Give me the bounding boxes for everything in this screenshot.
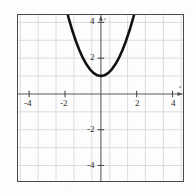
y-tick-label-4: 4: [90, 17, 95, 26]
x-tick-label--2: -2: [60, 99, 68, 108]
y-tick-label--2: -2: [87, 125, 95, 134]
scan-speck: [187, 8, 188, 9]
x-tick-label-4: 4: [171, 99, 176, 108]
plot-area: [17, 14, 184, 182]
graph-screenshot: -4 -2 2 4 4 2 -2 -4 y x: [0, 0, 193, 193]
y-tick-label--4: -4: [87, 161, 95, 170]
y-tick-label-2: 2: [90, 53, 95, 62]
y-axis-label: y: [104, 16, 106, 21]
scan-speck: [66, 189, 67, 190]
parabola-curve: [18, 15, 183, 181]
x-axis-label: x: [179, 84, 181, 89]
x-tick-label--4: -4: [24, 99, 32, 108]
x-tick-label-2: 2: [135, 99, 140, 108]
